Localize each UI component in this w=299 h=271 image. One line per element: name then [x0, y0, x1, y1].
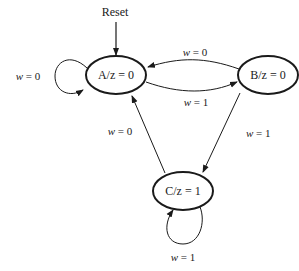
transition-a-a [55, 60, 87, 94]
transition-c-c-label: w = 1 [171, 251, 196, 263]
reset-label: Reset [102, 5, 129, 19]
transition-b-c-label: w = 1 [246, 127, 271, 139]
transition-a-b [146, 82, 237, 91]
state-c-label: C/z = 1 [165, 184, 200, 198]
transition-b-c [203, 93, 240, 172]
state-c: C/z = 1 [153, 172, 213, 210]
state-b: B/z = 0 [238, 56, 298, 94]
transition-c-c [167, 207, 202, 244]
transition-b-a-label: w = 0 [183, 46, 208, 58]
state-b-label: B/z = 0 [250, 68, 285, 82]
state-a: A/z = 0 [86, 56, 146, 94]
state-a-label: A/z = 0 [98, 68, 134, 82]
transition-c-a [132, 96, 165, 173]
state-diagram: Reset A/z = 0 B/z = 0 C/z = 1 w = 0 w = … [0, 0, 299, 271]
transition-c-a-label: w = 0 [108, 125, 133, 137]
transition-a-a-label: w = 0 [16, 70, 41, 82]
transition-b-a [148, 60, 239, 69]
transition-a-b-label: w = 1 [184, 96, 209, 108]
